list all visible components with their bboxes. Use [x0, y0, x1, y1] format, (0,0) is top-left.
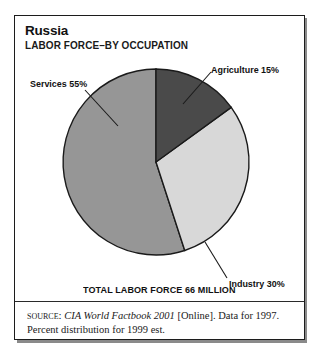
pie-label-agriculture: Agriculture 15%	[211, 64, 279, 75]
source-text: SOURCE: CIA World Factbook 2001 [Online]…	[27, 308, 292, 337]
figure-frame: Russia LABOR FORCE–BY OCCUPATION Service…	[14, 15, 305, 340]
source-publication: CIA World Factbook 2001	[64, 310, 175, 321]
source-note: SOURCE: CIA World Factbook 2001 [Online]…	[15, 301, 304, 337]
total-labor-force-caption: TOTAL LABOR FORCE 66 MILLION	[15, 284, 304, 295]
pie-label-services: Services 55%	[30, 78, 87, 89]
pie-chart: Services 55% Agriculture 15% Industry 30…	[15, 16, 303, 296]
leader-line-industry	[205, 242, 227, 278]
total-labor-force-text: TOTAL LABOR FORCE 66 MILLION	[83, 284, 236, 295]
source-kicker: SOURCE:	[27, 309, 62, 321]
figure-root: Russia LABOR FORCE–BY OCCUPATION Service…	[0, 0, 320, 355]
